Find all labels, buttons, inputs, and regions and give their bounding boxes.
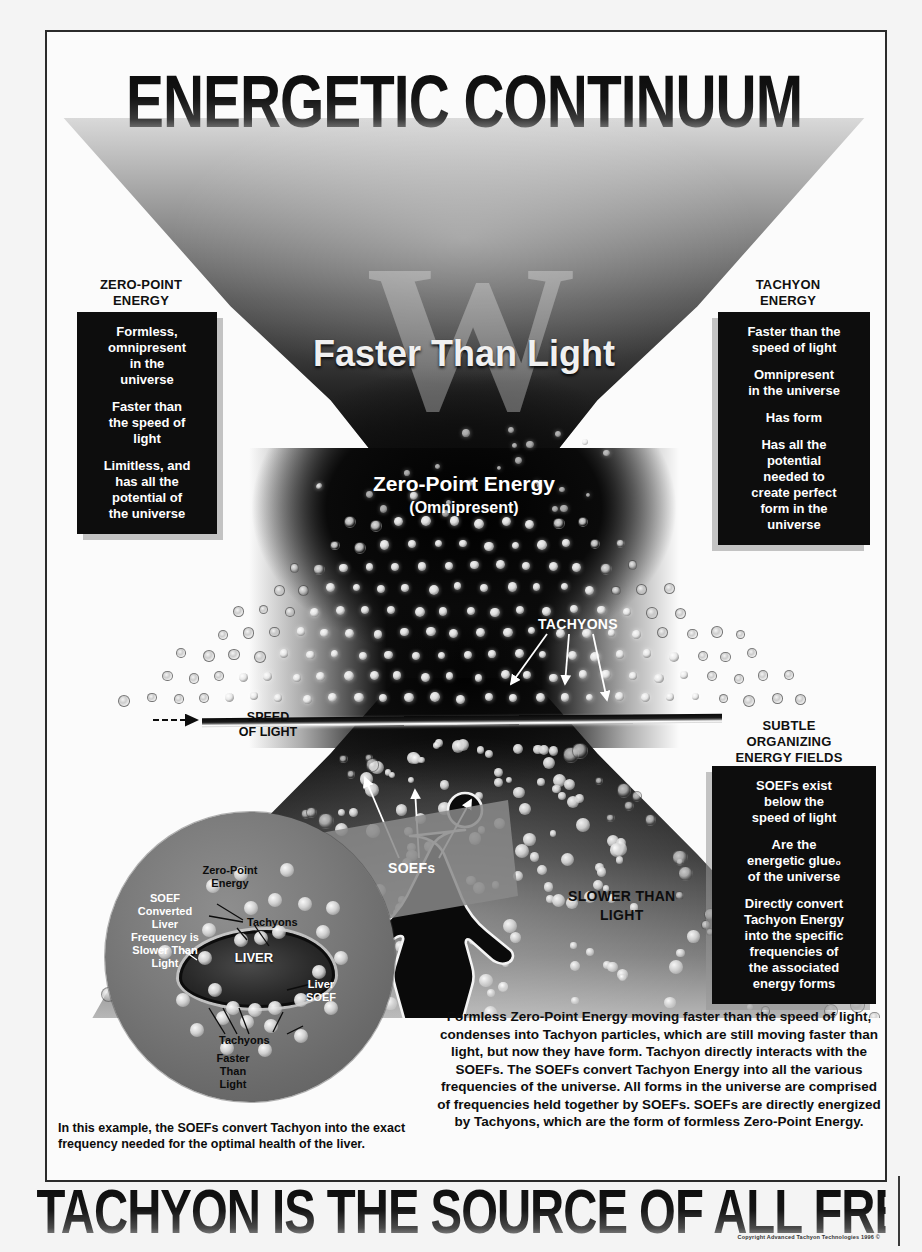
mag-zpe-line2: Energy [193, 877, 267, 890]
slower-line2: LIGHT [568, 906, 676, 925]
page-title: ENERGETIC CONTINUUM [53, 62, 874, 141]
callout-heading-tachyon-energy: TACHYON ENERGY [712, 277, 864, 309]
slower-line1: SLOWER THAN [568, 887, 676, 906]
speed-of-light-label: SPEED OF LIGHT [226, 710, 310, 740]
callout-box-tachyon-energy: Faster than the speed of lightOmnipresen… [718, 312, 870, 545]
callout-heading-zero-point-energy: ZERO-POINT ENERGY [62, 277, 220, 309]
magnifier-liver-soef-label: Liver SOEF [295, 978, 347, 1004]
liver-magnifier-circle: LIVER Zero-Point Energy SOEF Conve [105, 812, 395, 1102]
liver-soef-line2: SOEF [295, 991, 347, 1004]
callout-heading-subtle-organizing-energy-fields: SUBTLE ORGANIZING ENERGY FIELDS [700, 718, 878, 766]
banner-edge-rule [898, 1176, 900, 1246]
tachyons-label: TACHYONS [538, 616, 618, 632]
callout-item: SOEFs exist below the speed of light [718, 778, 870, 826]
magnifier-ftl-label: Faster Than Light [205, 1052, 261, 1091]
mag-zpe-line1: Zero-Point [193, 864, 267, 877]
magnifier-tachyons-lower-label: Tachyons [219, 1034, 287, 1047]
callout-item: Are the energetic glue₀ of the universe [718, 837, 870, 885]
callout-item: Formless, omnipresent in the universe [83, 324, 211, 388]
mag-ftl-line3: Light [205, 1078, 261, 1091]
callout-item-gap [718, 885, 870, 896]
callout-item-gap [718, 826, 870, 837]
callout-item-gap [83, 447, 211, 458]
callout-item-gap [724, 426, 864, 437]
callout-item: Has form [724, 410, 864, 426]
callout-item: Limitless, and has all the potential of … [83, 458, 211, 522]
title-area: ENERGETIC CONTINUUM [45, 62, 883, 132]
magnifier-soef-converted-label: SOEF Converted Liver Frequency is Slower… [127, 892, 203, 970]
callout-item: Directly convert Tachyon Energy into the… [718, 896, 870, 992]
sol-line2: OF LIGHT [226, 725, 310, 740]
magnifier-zpe-label: Zero-Point Energy [193, 864, 267, 890]
callout-box-subtle-organizing-energy-fields: SOEFs exist below the speed of lightAre … [712, 766, 876, 1004]
callout-item: Omnipresent in the universe [724, 367, 864, 399]
callout-box-zero-point-energy: Formless, omnipresent in the universeFas… [77, 312, 217, 534]
mag-ftl-line2: Than [205, 1065, 261, 1078]
paragraph-left: In this example, the SOEFs convert Tachy… [58, 1120, 458, 1152]
slower-than-light-label: SLOWER THAN LIGHT [568, 887, 676, 925]
paragraph-right: Formless Zero-Point Energy moving faster… [434, 1008, 884, 1131]
soefs-label: SOEFs [388, 860, 435, 876]
callout-item: Has all the potential needed to create p… [724, 437, 864, 533]
callout-item-gap [724, 399, 864, 410]
liver-soef-line1: Liver [295, 978, 347, 991]
callout-item: Faster than the speed of light [83, 399, 211, 447]
copyright-notice: Copyright Advanced Tachyon Technologies … [738, 1234, 880, 1240]
mag-ftl-line1: Faster [205, 1052, 261, 1065]
callout-item-gap [724, 356, 864, 367]
callout-item: Faster than the speed of light [724, 324, 864, 356]
magnifier-tachyons-upper-label: Tachyons [247, 916, 315, 929]
callout-item-gap [83, 388, 211, 399]
poster-canvas: ENERGETIC CONTINUUM W [0, 0, 922, 1252]
sol-line1: SPEED [226, 710, 310, 725]
bottom-banner-area: TACHYON IS THE SOURCE OF ALL FREQUENCIES [30, 1178, 892, 1240]
